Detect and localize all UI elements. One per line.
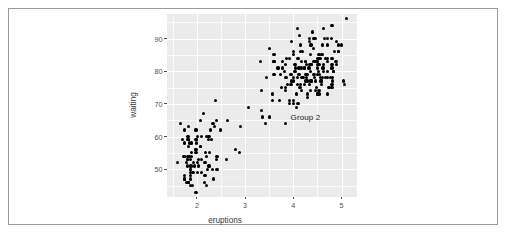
y-axis-title: waiting (129, 92, 138, 118)
x-tick-label: 4 (291, 201, 295, 210)
x-tick-mark (245, 197, 246, 199)
x-tick-label: 3 (243, 201, 247, 210)
x-tick-label: 2 (195, 201, 199, 210)
x-tick-label: 5 (340, 201, 344, 210)
x-axis: 2345 (130, 10, 370, 220)
scatter-plot: Group 1Group 2 5060708090 2345 eruptions… (130, 10, 370, 220)
x-tick-mark (293, 197, 294, 199)
x-tick-mark (196, 197, 197, 199)
figure-canvas: Group 1Group 2 5060708090 2345 eruptions… (0, 0, 507, 233)
x-tick-mark (341, 197, 342, 199)
x-axis-title: eruptions (208, 216, 242, 225)
